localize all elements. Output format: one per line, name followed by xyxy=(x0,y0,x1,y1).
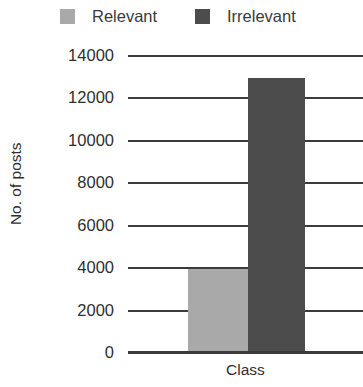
legend-swatch-icon-irrelevant xyxy=(195,9,210,24)
gridline xyxy=(128,55,363,57)
legend-item-irrelevant: Irrelevant xyxy=(195,6,296,26)
bar-relevant xyxy=(188,269,248,352)
gridline xyxy=(128,140,363,142)
x-axis-title: Class xyxy=(128,362,363,378)
y-axis-tick-label: 12000 xyxy=(68,89,114,106)
gridline xyxy=(128,225,363,227)
y-axis-tick-label: 14000 xyxy=(68,47,114,64)
x-axis-line xyxy=(128,351,363,353)
y-axis-title: No. of posts xyxy=(8,114,24,254)
y-axis-tick-label: 10000 xyxy=(68,132,114,149)
y-axis-tick-label: 8000 xyxy=(77,174,114,191)
gridline xyxy=(128,97,363,99)
y-axis-tick-label: 6000 xyxy=(77,216,114,233)
y-axis-tick-label: 0 xyxy=(105,344,114,361)
y-axis-tick-label: 2000 xyxy=(77,301,114,318)
bar-irrelevant xyxy=(248,78,305,352)
gridline xyxy=(128,182,363,184)
y-axis-tick-label: 4000 xyxy=(77,259,114,276)
legend-label-irrelevant: Irrelevant xyxy=(227,8,296,25)
bar-chart: Relevant Irrelevant 14000120001000080006… xyxy=(0,0,363,387)
plot-area xyxy=(128,55,363,352)
